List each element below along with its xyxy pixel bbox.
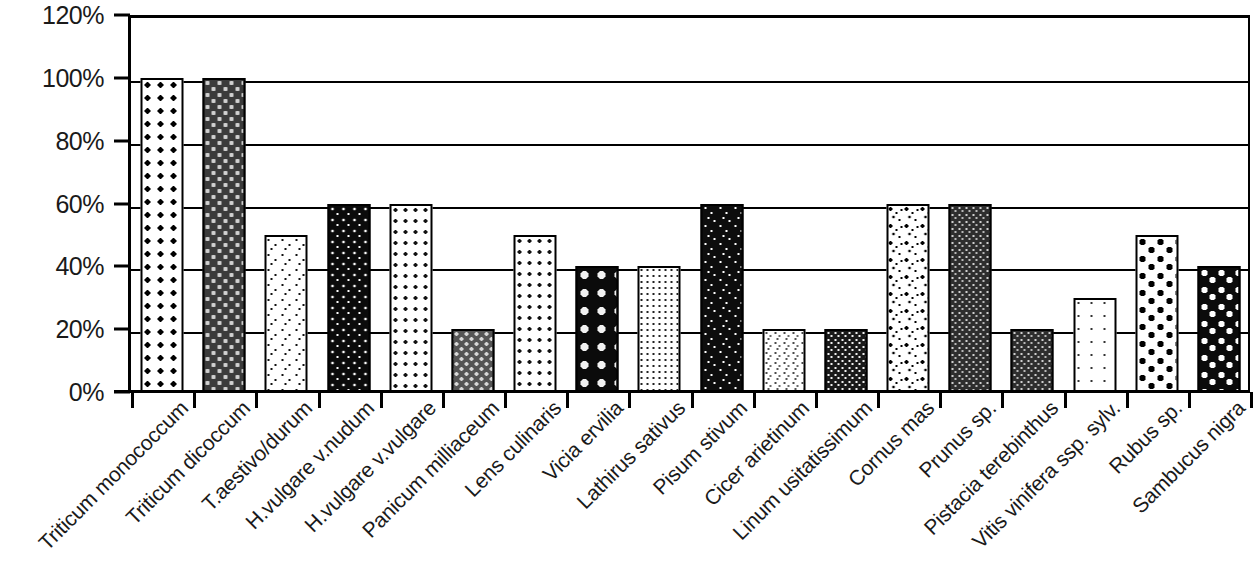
- x-axis-tick-mark: [193, 392, 196, 408]
- x-axis-tick-mark: [442, 392, 445, 408]
- bar-slot: [380, 15, 442, 392]
- x-axis-labels: Triticum monococcumTriticum dicoccumT.ae…: [0, 396, 1258, 571]
- x-axis-category-label: Lathirus sativus: [572, 396, 690, 514]
- x-axis-tick-mark: [318, 392, 321, 408]
- bar-slot: [939, 15, 1001, 392]
- bar-slot: [318, 15, 380, 392]
- x-axis-tick-mark: [1126, 392, 1129, 408]
- bar-slot: [442, 15, 504, 392]
- bar: [700, 204, 743, 393]
- bar: [203, 78, 246, 392]
- x-axis-tick-mark: [255, 392, 258, 408]
- x-axis-tick-mark: [815, 392, 818, 408]
- x-axis-tick-mark: [1064, 392, 1067, 408]
- x-axis-tick-mark: [131, 392, 134, 408]
- bar-slot: [877, 15, 939, 392]
- bar-chart: 0%20%40%60%80%100%120% Triticum monococc…: [0, 0, 1258, 571]
- bar: [1135, 235, 1178, 392]
- bar-slot: [1188, 15, 1250, 392]
- bar-slot: [1001, 15, 1063, 392]
- bar: [514, 235, 557, 392]
- bar: [576, 266, 619, 392]
- bar: [887, 204, 930, 393]
- bar: [762, 329, 805, 392]
- bar: [824, 329, 867, 392]
- x-axis-tick-mark: [566, 392, 569, 408]
- bar-slot: [753, 15, 815, 392]
- bar: [1011, 329, 1054, 392]
- x-axis-tick-mark: [753, 392, 756, 408]
- bar: [1197, 266, 1240, 392]
- bar-slot: [504, 15, 566, 392]
- bar-slot: [255, 15, 317, 392]
- x-axis-tick-mark: [504, 392, 507, 408]
- x-axis-tick-mark: [380, 392, 383, 408]
- bar: [327, 204, 370, 393]
- bar-slot: [1126, 15, 1188, 392]
- x-axis-tick-mark: [1188, 392, 1191, 408]
- bar: [638, 266, 681, 392]
- bar: [1073, 298, 1116, 392]
- x-axis-tick-mark: [877, 392, 880, 408]
- bar-slot: [131, 15, 193, 392]
- bar-slot: [815, 15, 877, 392]
- x-axis-tick-mark: [1250, 392, 1253, 408]
- bar-slot: [566, 15, 628, 392]
- bar-slot: [1064, 15, 1126, 392]
- x-axis-tick-mark: [691, 392, 694, 408]
- x-axis-category-label: Sambucus nigra: [1127, 396, 1249, 518]
- x-axis-line: [114, 390, 1250, 393]
- bar: [949, 204, 992, 393]
- bar-slot: [628, 15, 690, 392]
- bar-slot: [193, 15, 255, 392]
- bar: [389, 204, 432, 393]
- x-axis-tick-mark: [939, 392, 942, 408]
- bar: [451, 329, 494, 392]
- bar: [141, 78, 184, 392]
- x-axis-tick-mark: [628, 392, 631, 408]
- bar: [265, 235, 308, 392]
- bar-slot: [691, 15, 753, 392]
- bars-layer: [131, 15, 1250, 392]
- x-axis-category-label: T.aestivo/durum: [197, 396, 317, 516]
- x-axis-tick-mark: [1001, 392, 1004, 408]
